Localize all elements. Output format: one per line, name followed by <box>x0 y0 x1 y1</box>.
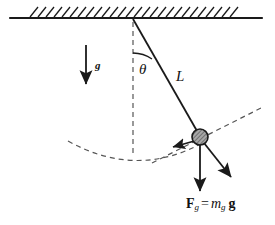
weight-force-symbol: F <box>186 196 195 211</box>
pendulum-bob <box>192 129 208 145</box>
weight-equals-sign: = <box>199 196 211 211</box>
weight-mass-symbol: m <box>211 196 221 211</box>
pendulum-string <box>133 19 201 138</box>
radial-force-arrow <box>204 143 231 177</box>
weight-gravity-symbol: g <box>226 196 236 211</box>
angle-arc <box>133 53 152 59</box>
ceiling-hatching <box>30 7 238 17</box>
gravity-field-label: g <box>95 60 101 71</box>
weight-force-label: Fg=mgg <box>186 197 236 212</box>
weight-mass-subscript: g <box>221 202 226 212</box>
angle-label: θ <box>139 62 146 77</box>
diagram-canvas <box>0 0 275 225</box>
length-label: L <box>176 69 184 84</box>
pendulum-diagram: θ L g Fg=mgg <box>0 0 275 225</box>
